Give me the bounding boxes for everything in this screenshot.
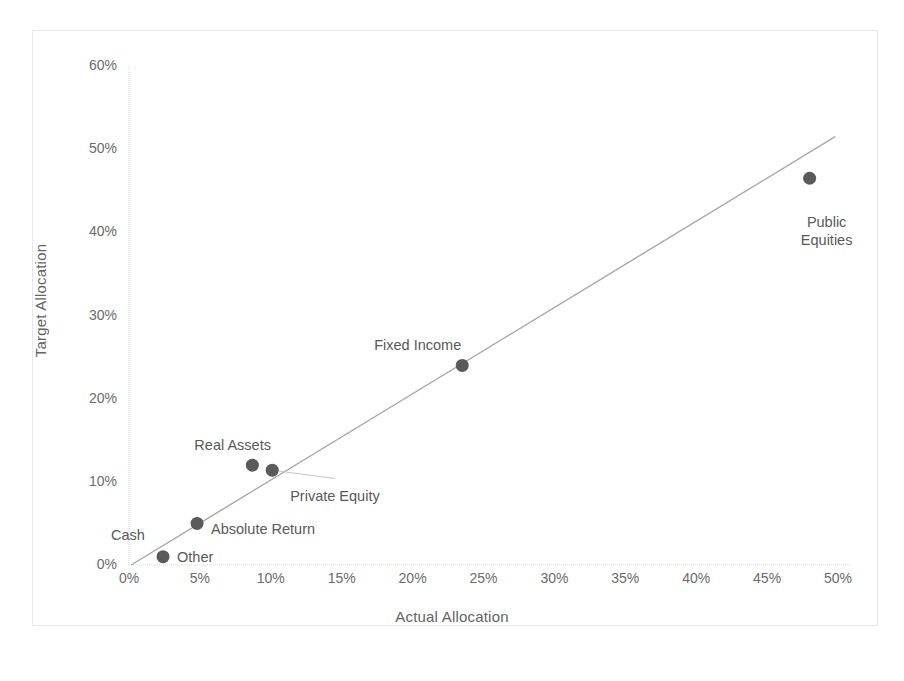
y-tick-label: 40% — [61, 223, 117, 239]
point-label: Real Assets — [194, 437, 271, 455]
y-tick-label: 10% — [61, 473, 117, 489]
y-tick-label: 0% — [61, 556, 117, 572]
data-points-group — [157, 172, 817, 563]
x-tick-label: 10% — [241, 570, 301, 586]
data-point-marker — [191, 517, 204, 530]
y-tick-label: 30% — [61, 307, 117, 323]
x-tick-label: 40% — [666, 570, 726, 586]
point-label: Fixed Income — [374, 337, 461, 355]
y-tick-label: 20% — [61, 390, 117, 406]
point-label: Other — [177, 549, 213, 567]
point-label: Cash — [111, 527, 145, 545]
data-point-marker — [456, 359, 469, 372]
point-label: Public Equities — [794, 214, 860, 249]
axis-lines — [129, 66, 850, 565]
x-tick-label: 45% — [737, 570, 797, 586]
y-tick-label: 50% — [61, 140, 117, 156]
x-tick-label: 0% — [99, 570, 159, 586]
point-label: Absolute Return — [211, 521, 315, 539]
data-point-marker — [803, 172, 816, 185]
data-point-marker — [266, 464, 279, 477]
x-tick-label: 5% — [170, 570, 230, 586]
x-axis-title: Actual Allocation — [0, 608, 904, 625]
x-tick-label: 20% — [383, 570, 443, 586]
x-tick-label: 15% — [312, 570, 372, 586]
x-tick-label: 30% — [524, 570, 584, 586]
x-tick-label: 50% — [808, 570, 868, 586]
leader-line-group — [272, 470, 334, 478]
scatter-chart: 0%5%10%15%20%25%30%35%40%45%50% 0%10%20%… — [0, 0, 904, 681]
data-point-marker — [246, 459, 259, 472]
x-tick-label: 35% — [595, 570, 655, 586]
x-tick-label: 25% — [454, 570, 514, 586]
y-axis-title: Target Allocation — [32, 201, 49, 401]
y-tick-label: 60% — [61, 57, 117, 73]
trendline-group — [131, 137, 835, 565]
data-point-marker — [157, 550, 170, 563]
point-label: Private Equity — [290, 488, 379, 506]
